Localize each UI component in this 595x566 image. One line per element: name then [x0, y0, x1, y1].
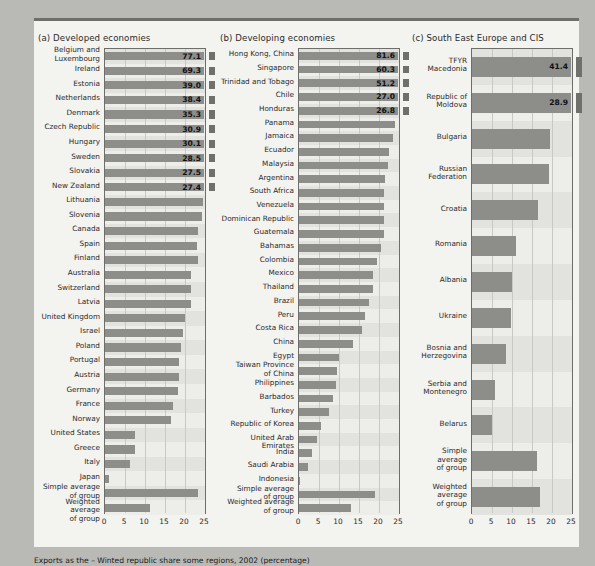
- category-label: Switzerland: [38, 284, 100, 292]
- bar: [105, 271, 191, 279]
- x-axis-tick: 15: [522, 517, 540, 526]
- bar-value-label: 60.3: [376, 65, 395, 74]
- category-label: Ecuador: [220, 146, 294, 154]
- bar-value-label: 27.0: [376, 92, 395, 101]
- bar: [472, 380, 495, 400]
- category-label: Czech Republic: [38, 123, 100, 131]
- bar: [299, 134, 393, 142]
- bar-break-stub: [209, 67, 215, 75]
- bar-value-label: 27.5: [182, 168, 201, 177]
- category-label: Greece: [38, 444, 100, 452]
- bar: [299, 121, 395, 129]
- bar: [472, 272, 512, 292]
- bar: [299, 230, 384, 238]
- category-label: Turkey: [220, 407, 294, 415]
- bar: [299, 244, 381, 252]
- plot-area: 81.660.351.227.026.8: [298, 48, 400, 514]
- bar-value-label: 26.8: [376, 106, 395, 115]
- category-label: Weighted average of group: [38, 498, 100, 523]
- category-label: Philippines: [220, 379, 294, 387]
- category-label: TFYR Macedonia: [412, 57, 467, 74]
- category-label: Belarus: [412, 420, 467, 428]
- bar-value-label: 38.4: [182, 95, 201, 104]
- category-label: Simple average of group: [412, 447, 467, 472]
- gridline: [552, 49, 553, 513]
- x-axis-tick: 0: [95, 517, 113, 526]
- category-label: Italy: [38, 458, 100, 466]
- category-label: Republic of Moldova: [412, 93, 467, 110]
- bar-break-stub: [403, 79, 409, 87]
- gridline: [512, 49, 513, 513]
- category-label: Serbia and Montenegro: [412, 380, 467, 397]
- bar: [299, 354, 339, 362]
- category-label: China: [220, 338, 294, 346]
- bar: [299, 271, 373, 279]
- bar-value-label: 41.4: [549, 62, 568, 71]
- gridline: [532, 49, 533, 513]
- figure-card: (a) Developed economies77.169.339.038.43…: [34, 21, 579, 547]
- bar: [105, 416, 171, 424]
- bar-break-stub: [209, 154, 215, 162]
- bar: [105, 475, 109, 483]
- bar: [299, 422, 321, 430]
- bar-break-stub: [403, 66, 409, 74]
- bar: [299, 258, 377, 266]
- category-label: Guatemala: [220, 228, 294, 236]
- bar: [299, 148, 389, 156]
- bar-break-stub: [209, 96, 215, 104]
- bar: [105, 329, 183, 337]
- category-label: Slovakia: [38, 167, 100, 175]
- bar: [299, 216, 384, 224]
- category-label: Saudi Arabia: [220, 461, 294, 469]
- category-label: Indonesia: [220, 475, 294, 483]
- plot-area: 77.169.339.038.435.330.930.128.527.527.4: [104, 48, 206, 514]
- bar-break-stub: [209, 169, 215, 177]
- bar-break-stub: [403, 107, 409, 115]
- category-label: Chile: [220, 91, 294, 99]
- gridline: [319, 49, 320, 513]
- category-label: Bosnia and Herzegovina: [412, 344, 467, 361]
- x-axis-tick: 0: [289, 517, 307, 526]
- bar: [299, 326, 362, 334]
- bar: [299, 162, 388, 170]
- bar-value-label: 51.2: [376, 79, 395, 88]
- bar: [105, 256, 198, 264]
- plot-inner: 41.428.9: [472, 49, 572, 513]
- category-label: Austria: [38, 371, 100, 379]
- bar: [299, 491, 375, 499]
- category-label: Germany: [38, 386, 100, 394]
- gridline: [145, 49, 146, 513]
- row-band: [299, 460, 399, 474]
- x-axis-tick: 20: [542, 517, 560, 526]
- category-label: Finland: [38, 254, 100, 262]
- panel-title: (b) Developing economies: [220, 33, 335, 43]
- panel-developing-economies: (b) Developing economies81.660.351.227.0…: [220, 21, 406, 547]
- category-label: Albania: [412, 276, 467, 284]
- category-label: United Kingdom: [38, 313, 100, 321]
- category-label: Trinidad and Tobago: [220, 78, 294, 86]
- bar: [299, 285, 373, 293]
- category-label: Norway: [38, 415, 100, 423]
- category-label: Japan: [38, 473, 100, 481]
- category-label: Panama: [220, 119, 294, 127]
- bar: [105, 227, 198, 235]
- bar-break-stub: [403, 93, 409, 101]
- bar: [299, 504, 351, 512]
- row-band: [299, 446, 399, 460]
- category-label: South Africa: [220, 187, 294, 195]
- category-label: Australia: [38, 269, 100, 277]
- x-axis-tick: 20: [175, 517, 193, 526]
- bar-break-stub: [209, 81, 215, 89]
- bar: [299, 436, 317, 444]
- category-label: New Zealand: [38, 182, 100, 190]
- bar-value-label: 69.3: [182, 66, 201, 75]
- bar-break-stub: [576, 93, 582, 113]
- bar: [105, 300, 191, 308]
- plot-inner: 77.169.339.038.435.330.930.128.527.527.4: [105, 49, 205, 513]
- row-band: [299, 474, 399, 488]
- bar: [472, 415, 492, 435]
- category-label: Thailand: [220, 283, 294, 291]
- bar: [105, 489, 198, 497]
- bar: [472, 164, 549, 184]
- bar-break-stub: [209, 140, 215, 148]
